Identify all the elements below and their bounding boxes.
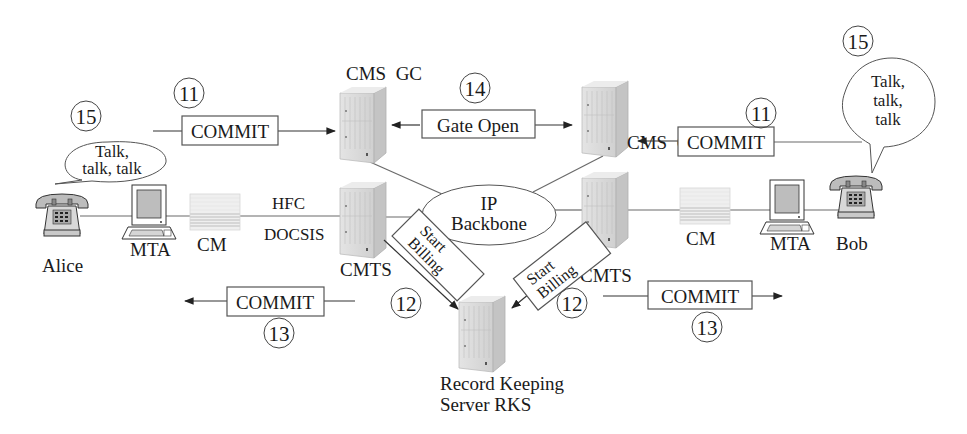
ip-backbone-line1: IP xyxy=(481,193,498,214)
mta-computer-icon xyxy=(760,180,814,234)
step-11-right: 11 xyxy=(751,102,771,126)
step-13-left: 13 xyxy=(269,322,290,346)
step-12-left: 12 xyxy=(396,292,417,316)
speech-alice-line2: talk, talk xyxy=(82,159,142,178)
cmts-left-label: CMTS xyxy=(340,259,392,280)
cable-modem-icon xyxy=(680,188,730,224)
cms-gc-left-server-icon xyxy=(340,87,386,163)
ip-backbone-line2: Backbone xyxy=(451,213,527,234)
rks-line2: Server RKS xyxy=(440,394,531,415)
phone-icon xyxy=(36,194,88,236)
step-15-right: 15 xyxy=(848,30,869,54)
mta-left-label: MTA xyxy=(130,239,171,260)
speech-bubble-alice: Talk, talk, talk xyxy=(55,142,166,184)
step-13-right: 13 xyxy=(697,316,718,340)
cmts-left-server-icon xyxy=(340,182,386,258)
phone-icon xyxy=(830,176,882,218)
rks-server-icon xyxy=(459,296,505,372)
speech-bob-line3: talk xyxy=(875,110,901,129)
speech-bob-line2: talk, xyxy=(873,91,903,110)
bob-label: Bob xyxy=(836,233,868,254)
diagram-canvas: Alice MTA CM HFC DOCSIS Talk, talk, talk… xyxy=(0,0,967,434)
cms-gc-right-server-icon xyxy=(582,81,628,157)
step-12-right: 12 xyxy=(562,292,583,316)
hfc-label: HFC xyxy=(272,194,305,213)
docsis-label: DOCSIS xyxy=(264,225,324,244)
speech-bob-line1: Talk, xyxy=(871,72,905,91)
step-14: 14 xyxy=(465,77,487,101)
commit-top-right-label: COMMIT xyxy=(687,132,766,153)
rks-line1: Record Keeping xyxy=(440,373,564,394)
gate-open-label: Gate Open xyxy=(437,115,519,136)
commit-bottom-right-label: COMMIT xyxy=(661,286,740,307)
cm-right-label: CM xyxy=(686,228,716,249)
mta-computer-icon xyxy=(122,185,176,239)
cable-modem-icon xyxy=(190,194,240,230)
step-11-left: 11 xyxy=(179,82,199,106)
cms-gc-left-label: CMS GC xyxy=(346,63,422,84)
alice-label: Alice xyxy=(42,255,83,276)
step-15-left: 15 xyxy=(76,105,97,129)
speech-bubble-bob: Talk, talk, talk xyxy=(842,58,935,173)
cm-left-label: CM xyxy=(197,234,227,255)
commit-bottom-left-label: COMMIT xyxy=(236,292,315,313)
commit-top-left-label: COMMIT xyxy=(191,121,270,142)
mta-right-label: MTA xyxy=(770,233,811,254)
